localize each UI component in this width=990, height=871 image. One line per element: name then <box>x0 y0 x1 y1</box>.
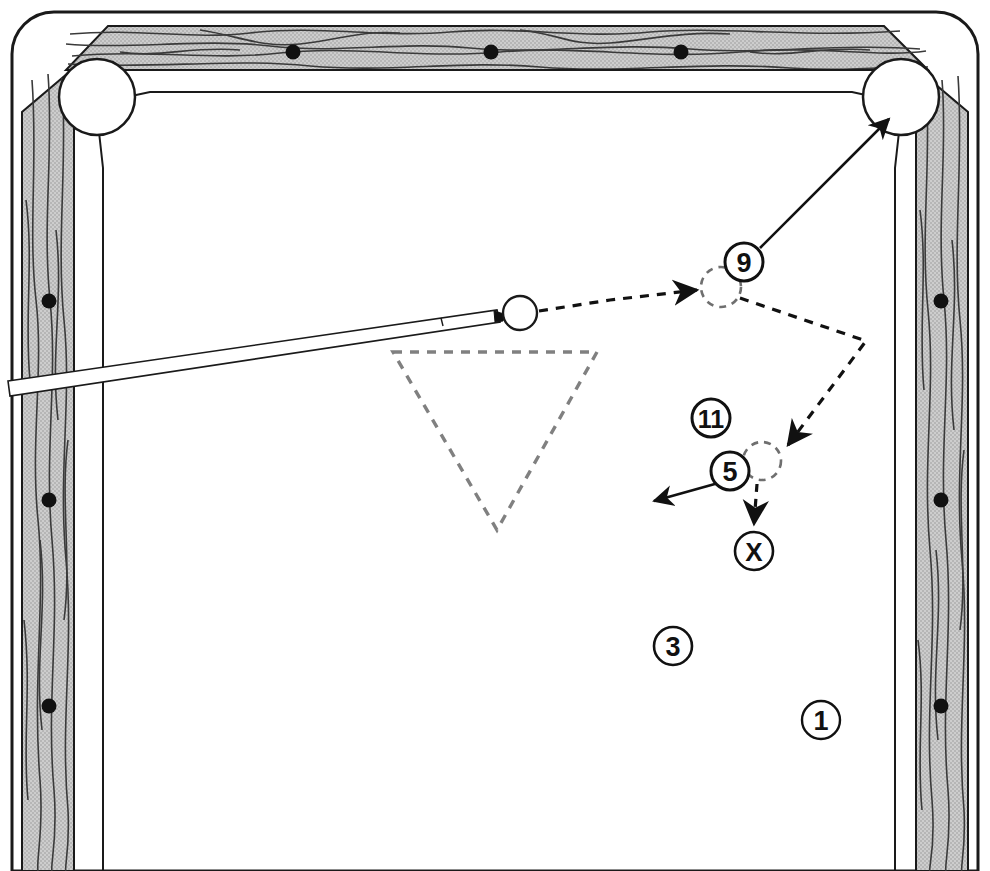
ball-label-x-text: X <box>745 537 763 567</box>
ball-label-3[interactable]: 3 <box>654 627 692 665</box>
diamond-left-1 <box>42 294 57 309</box>
ball-label-5[interactable]: 5 <box>711 452 749 490</box>
ball-label-9-text: 9 <box>736 248 751 278</box>
top-rail <box>66 26 928 70</box>
diamond-right-2 <box>934 493 949 508</box>
top-right-corner-pocket[interactable] <box>863 59 939 135</box>
table-outer-edge <box>12 12 978 871</box>
ball-label-11-text: 11 <box>698 405 725 433</box>
top-left-corner-pocket[interactable] <box>59 59 135 135</box>
ball-label-x[interactable]: X <box>735 532 773 570</box>
diamond-left-2 <box>42 493 57 508</box>
ball-label-11[interactable]: 11 <box>692 399 730 437</box>
left-rail <box>22 68 74 871</box>
diamond-left-3 <box>42 699 57 714</box>
cue-ball[interactable] <box>503 296 537 330</box>
diagram-canvas: 9 11 5 X 3 1 <box>0 0 990 871</box>
ball-label-5-text: 5 <box>722 457 737 487</box>
ball-label-1[interactable]: 1 <box>802 701 840 739</box>
diamond-right-3 <box>934 699 949 714</box>
ball-label-1-text: 1 <box>813 706 828 736</box>
right-rail <box>916 68 968 871</box>
ball-label-9[interactable]: 9 <box>725 243 763 281</box>
diamond-top-2 <box>484 45 499 60</box>
diamond-right-1 <box>934 294 949 309</box>
ball-label-3-text: 3 <box>665 632 680 662</box>
diamond-top-1 <box>286 45 301 60</box>
diamond-top-3 <box>674 45 689 60</box>
pool-table-diagram: 9 11 5 X 3 1 <box>0 0 990 871</box>
table-body <box>12 12 978 871</box>
